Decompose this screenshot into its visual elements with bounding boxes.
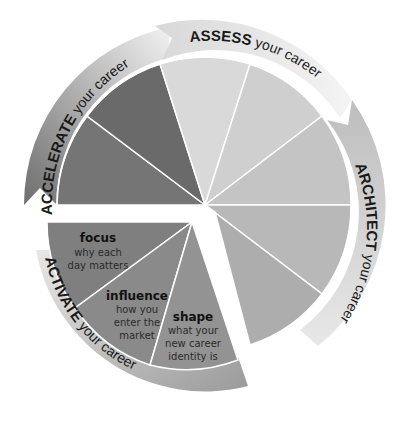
- svg-text:day matters: day matters: [68, 260, 129, 271]
- svg-text:influence: influence: [106, 289, 168, 303]
- svg-text:what your: what your: [168, 325, 219, 336]
- svg-text:identity is: identity is: [168, 351, 217, 362]
- svg-text:new career: new career: [165, 338, 222, 349]
- svg-text:enter the: enter the: [114, 317, 160, 328]
- career-wheel-diagram: ASSESS your career ACCELERATE your caree…: [0, 0, 403, 428]
- svg-text:why each: why each: [74, 247, 122, 258]
- svg-text:market: market: [119, 330, 155, 341]
- svg-text:shape: shape: [173, 310, 214, 324]
- svg-text:how you: how you: [116, 304, 158, 315]
- svg-text:focus: focus: [80, 231, 116, 245]
